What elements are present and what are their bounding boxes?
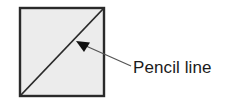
pencil-line-diagram: [0, 0, 237, 101]
pencil-line-label: Pencil line: [133, 58, 212, 78]
